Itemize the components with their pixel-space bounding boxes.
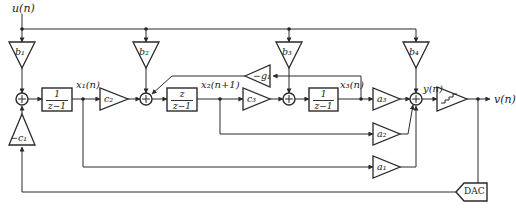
label-y: y(n) <box>423 84 443 94</box>
label-output-v: v(n) <box>494 94 516 105</box>
integrator-2: z z−1 <box>167 90 197 111</box>
diagram-canvas: u(n) x₁(n) x₂(n+1) x₃(n) y(n) v(n) b₁ b₂… <box>0 0 516 210</box>
gain-a3-label: a₃ <box>377 94 386 104</box>
diagram-wires <box>0 0 516 210</box>
gain-a2-label: a₂ <box>377 129 386 139</box>
summer-2 <box>140 93 152 105</box>
gain-b2-label: b₂ <box>139 47 149 57</box>
dac-label: DAC <box>464 187 485 196</box>
gain-a1-label: a₁ <box>377 162 386 172</box>
label-x3: x₃(n) <box>340 80 364 90</box>
gain-minus-c1-label: −c₁ <box>10 133 27 143</box>
gain-c2-label: c₂ <box>104 94 113 104</box>
gain-b3-label: b₃ <box>282 47 292 57</box>
label-input-u: u(n) <box>12 3 35 14</box>
gain-minus-g1-label: −g₁ <box>253 71 271 81</box>
gain-b4-label: b₄ <box>409 47 419 57</box>
label-x2: x₂(n+1) <box>201 80 240 90</box>
label-x1: x₁(n) <box>76 80 100 90</box>
summer-1 <box>16 93 28 105</box>
summer-4 <box>410 93 422 105</box>
integrator-3: 1 z−1 <box>309 90 338 111</box>
gain-c3-label: c₃ <box>247 94 256 104</box>
summer-3 <box>283 93 295 105</box>
integrator-1: 1 z−1 <box>42 90 72 111</box>
gain-b1-label: b₁ <box>15 47 25 57</box>
junction-dot <box>20 27 24 31</box>
